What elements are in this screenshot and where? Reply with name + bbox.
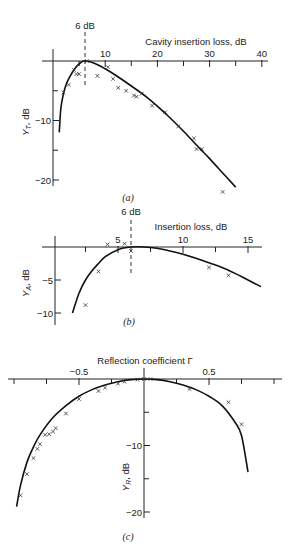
data-point-marker [38,442,42,446]
data-point-marker [207,266,211,270]
x-tick-label: 10 [100,48,111,59]
data-point-marker [192,137,196,141]
data-point-marker [54,426,58,430]
data-point-marker [111,77,115,81]
data-point-marker [103,386,107,390]
chart-a: 10203040 −10−20 6 dB Cavity insertion lo… [20,20,268,204]
chart-a-x-label: Cavity insertion loss, dB [145,36,246,47]
x-tick-label: 20 [152,48,163,59]
chart-b-caption: (b) [123,316,135,328]
data-point-marker [150,104,154,108]
chart-c: −0.50.5 −10−20 Reflection coefficient Γ … [8,355,282,543]
chart-b: 51015 −5−10 6 dB Insertion loss, dB YA, … [20,206,262,328]
x-tick-label: 15 [243,234,254,245]
chart-b-theory-curve [73,247,262,313]
data-point-marker [43,433,47,437]
data-point-marker [97,270,101,274]
chart-a-theory-curve [59,61,235,187]
chart-b-y-label: YA, dB [20,269,32,297]
x-tick-label: 0.5 [202,366,215,377]
x-tick-label: 30 [204,48,215,59]
chart-c-y-label: YR, dB [120,463,132,491]
data-point-marker [47,432,51,436]
data-point-marker [77,397,81,401]
data-point-marker [195,147,199,151]
x-tick-label: 5 [115,234,120,245]
chart-a-y-label: YT, dB [20,108,32,136]
data-point-marker [106,243,110,247]
data-point-marker [227,274,231,278]
chart-c-measured-points [19,377,244,497]
data-point-marker [25,472,29,476]
data-point-marker [51,430,55,434]
y-tick-label: −20 [126,507,142,518]
chart-c-x-label: Reflection coefficient Γ [97,355,192,366]
data-point-marker [32,456,36,460]
y-tick-label: −10 [126,440,142,451]
chart-b-x-label: Insertion loss, dB [155,221,228,232]
y-tick-label: −20 [35,175,51,186]
x-tick-label: 40 [257,48,268,59]
chart-c-caption: (c) [122,531,134,543]
data-point-marker [106,65,110,69]
x-tick-label: −0.5 [70,366,89,377]
y-tick-label: −5 [42,275,53,286]
data-point-marker [64,412,68,416]
chart-b-measured-points [84,242,231,307]
chart-b-annotation: 6 dB [121,206,141,217]
data-point-marker [124,89,128,93]
chart-a-annotation: 6 dB [75,20,95,31]
y-tick-label: −10 [35,115,51,126]
data-point-marker [67,83,71,87]
chart-a-caption: (a) [122,192,134,204]
chart-a-measured-points [62,59,225,194]
data-point-marker [123,242,127,246]
data-point-marker [84,303,88,307]
x-tick-label: 10 [178,234,189,245]
chart-a-y-ticks: −10−20 [35,91,59,186]
data-point-marker [36,447,40,451]
chart-a-x-ticks: 10203040 [79,48,267,67]
data-point-marker [97,389,101,393]
y-tick-label: −10 [37,308,53,319]
data-point-marker [240,422,244,426]
chart-b-y-ticks: −5−10 [37,275,61,319]
data-point-marker [116,86,120,90]
data-point-marker [96,74,100,78]
data-point-marker [221,190,225,194]
data-point-marker [77,72,81,76]
data-point-marker [227,400,231,404]
figure-canvas: 10203040 −10−20 6 dB Cavity insertion lo… [0,0,297,550]
